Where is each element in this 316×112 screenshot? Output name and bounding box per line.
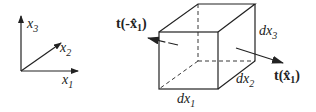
pos-traction-label: t(x̂1) bbox=[274, 68, 300, 85]
neg-traction-arrow bbox=[148, 38, 178, 45]
x3-label: x3 bbox=[26, 16, 38, 34]
x2-label: x2 bbox=[59, 40, 71, 58]
dx3-label: dx3 bbox=[259, 23, 277, 41]
cube-front-face bbox=[159, 32, 218, 89]
dx1-label: dx1 bbox=[177, 91, 195, 109]
dx2-label: dx2 bbox=[236, 71, 254, 89]
neg-traction-label: t(-x̂1) bbox=[116, 16, 147, 33]
x2-axis bbox=[21, 43, 61, 71]
cube-top-face bbox=[159, 4, 255, 32]
stress-cube-diagram: x3 x2 x1 dx1 dx2 dx3 t(-x̂1) t(x̂1) bbox=[0, 0, 316, 112]
x1-label: x1 bbox=[61, 72, 73, 90]
